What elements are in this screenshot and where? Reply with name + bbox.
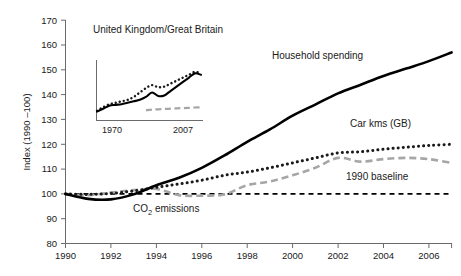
x-axis-tick-labels: 1990 1992 1994 1996 1998 2000 2002 2004 …: [55, 250, 440, 261]
x-tick-label: 1994: [146, 250, 167, 261]
co2-prefix: CO: [133, 203, 148, 214]
y-tick-label: 90: [46, 213, 57, 224]
x-tick-label: 1998: [237, 250, 258, 261]
chart-figure: 80 90 100 110 120 130 140 150 160 170 In…: [0, 0, 461, 276]
co2-suffix: emissions: [152, 203, 199, 214]
y-tick-label: 170: [41, 15, 57, 26]
x-tick-label: 2004: [373, 250, 394, 261]
x-tick-label: 1990: [55, 250, 76, 261]
annotation-1990-baseline: 1990 baseline: [346, 171, 409, 182]
inset-series-line-co2-emissions: [146, 107, 201, 110]
y-tick-label: 100: [41, 188, 57, 199]
y-tick-label: 150: [41, 64, 57, 75]
x-axis-ticks: [66, 244, 452, 249]
annotation-household-spending: Household spending: [272, 50, 363, 61]
annotation-co2-emissions: CO2 emissions: [133, 203, 199, 217]
y-axis-tick-labels: 80 90 100 110 120 130 140 150 160 170: [41, 15, 57, 249]
x-tick-label: 1996: [191, 250, 212, 261]
series-line-car-kms: [66, 144, 452, 194]
inset-chart: United Kingdom/Great Britain 1970 2007: [93, 24, 223, 135]
y-tick-label: 120: [41, 139, 57, 150]
y-tick-label: 130: [41, 114, 57, 125]
inset-x-tick-label: 1970: [102, 125, 122, 135]
x-tick-label: 1992: [100, 250, 121, 261]
y-tick-label: 80: [46, 238, 57, 249]
annotation-car-kms: Car kms (GB): [350, 118, 411, 129]
x-tick-label: 2000: [282, 250, 303, 261]
x-tick-label: 2002: [328, 250, 349, 261]
line-chart-canvas: 80 90 100 110 120 130 140 150 160 170 In…: [0, 0, 461, 276]
y-tick-label: 160: [41, 39, 57, 50]
y-axis-ticks: [61, 20, 66, 243]
x-tick-label: 2006: [418, 250, 439, 261]
inset-x-tick-label: 2007: [173, 125, 193, 135]
y-axis-title: Index (1990 –100): [21, 93, 32, 170]
y-tick-label: 140: [41, 89, 57, 100]
inset-series-line-household-spending: [97, 73, 201, 111]
y-tick-label: 110: [42, 163, 57, 174]
inset-title: United Kingdom/Great Britain: [93, 24, 223, 35]
